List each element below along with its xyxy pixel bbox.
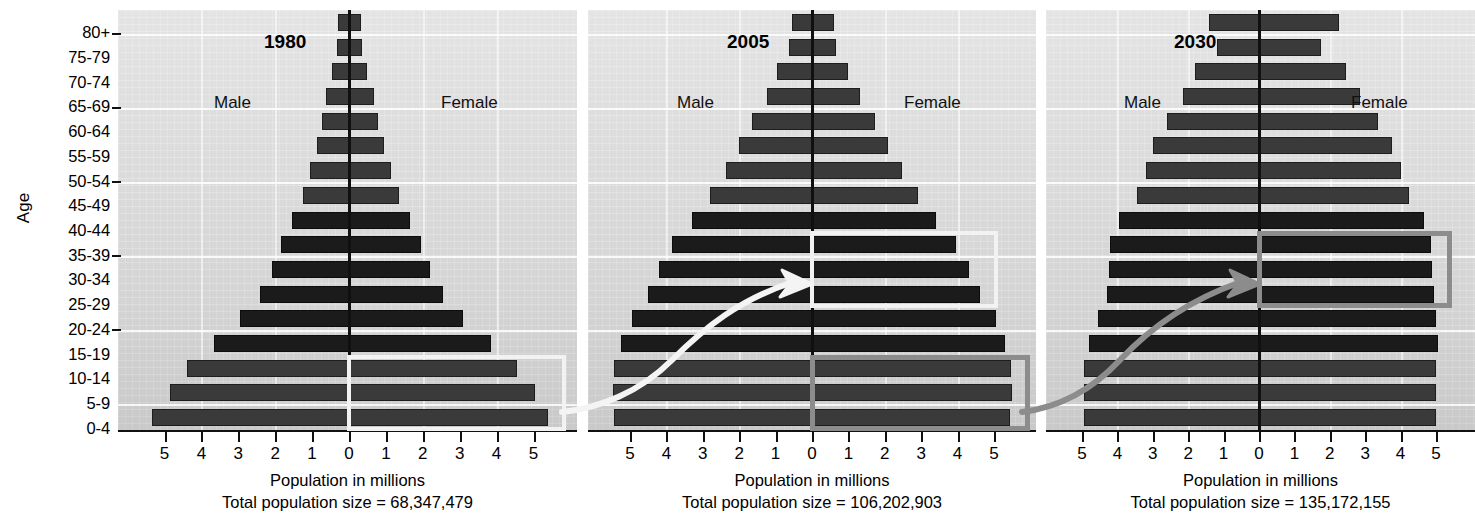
bar-female [1259,360,1436,377]
bar-male [1153,137,1259,154]
bar-female [1259,286,1434,303]
bar-female [812,384,1012,401]
x-axis-tick [534,431,536,442]
bar-male [648,286,812,303]
x-axis-tick-label: 5 [522,444,546,464]
x-axis-tick [666,431,668,442]
x-axis-tick [703,431,705,442]
x-axis-tick-label: 2 [1318,444,1342,464]
age-axis-labels: 80+75-7970-7465-6960-6455-5950-5445-4940… [30,20,110,430]
panel-year-label: 1980 [264,31,306,53]
bar-female [812,88,860,105]
x-axis-tick-label: 5 [153,444,177,464]
x-axis-tick-label: 2 [411,444,435,464]
age-label: 65-69 [30,98,110,115]
panel-caption: Population in millionsTotal population s… [1046,470,1475,514]
x-axis-tick-label: 3 [226,444,250,464]
bar-female [812,137,888,154]
bar-female [812,286,980,303]
bar-female [1259,310,1436,327]
bar-female [1259,409,1436,426]
bar-female [1259,137,1392,154]
total-population-label: Total population size = 135,172,155 [1046,492,1475,514]
center-axis-line [348,10,351,430]
bar-female [1259,335,1438,352]
bar-male [1084,384,1259,401]
x-axis-tick [1117,431,1119,442]
bar-female [1259,212,1424,229]
bar-male [659,261,812,278]
bar-male [1084,409,1259,426]
age-label: 55-59 [30,148,110,165]
x-axis-tick [1294,431,1296,442]
x-axis-tick-label: 4 [485,444,509,464]
x-axis-tick [776,431,778,442]
bar-male [292,212,349,229]
bar-male [1084,360,1259,377]
x-axis-tick [630,431,632,442]
bar-female [1259,39,1321,56]
age-label: 50-54 [30,173,110,190]
bar-male [332,63,349,80]
x-axis-line [118,430,577,432]
x-axis-title: Population in millions [734,471,889,489]
bar-male [1209,14,1259,31]
bar-male [1119,212,1259,229]
x-axis-tick [349,431,351,442]
panel-year-label: 2030 [1174,31,1216,53]
x-axis-tick-label: 3 [691,444,715,464]
bar-female [349,261,430,278]
x-axis-tick [1188,431,1190,442]
age-label: 15-19 [30,346,110,363]
bar-male [214,335,349,352]
bar-female [812,39,836,56]
x-axis-tick-label: 1 [300,444,324,464]
bar-male [1217,39,1259,56]
x-axis-tick [1365,431,1367,442]
x-axis: 54321012345 [588,430,1036,442]
bar-male [317,137,349,154]
bar-male [777,63,812,80]
x-axis-tick [165,431,167,442]
x-axis-tick [1401,431,1403,442]
bar-female [1259,162,1401,179]
x-axis-tick-label: 0 [800,444,824,464]
bar-male [1107,286,1259,303]
bar-male [1146,162,1259,179]
x-axis-tick-label: 0 [1247,444,1271,464]
bar-female [349,236,421,253]
bar-female [812,335,1005,352]
x-axis-tick-label: 3 [909,444,933,464]
x-axis-tick-label: 3 [448,444,472,464]
bar-female [349,409,548,426]
x-axis-tick [994,431,996,442]
bar-female [1259,63,1346,80]
x-axis-tick [739,431,741,442]
bar-female [812,236,956,253]
x-axis-tick-label: 4 [1105,444,1129,464]
x-axis-tick [1436,431,1438,442]
age-label: 20-24 [30,321,110,338]
bar-male [789,39,812,56]
x-axis-title: Population in millions [270,471,425,489]
bar-female [349,113,378,130]
x-axis-tick-label: 2 [1176,444,1200,464]
bar-female [1259,261,1432,278]
panel-2030: 2030MaleFemale [1046,10,1475,430]
age-axis-tick [112,107,121,109]
x-axis-tick-label: 2 [263,444,287,464]
bar-female [349,310,463,327]
x-axis-tick [958,431,960,442]
age-axis-tick [112,255,121,257]
bar-female [812,162,902,179]
bar-male [792,14,812,31]
x-axis-tick-label: 1 [836,444,860,464]
x-axis-tick [848,431,850,442]
age-axis-tick [112,33,121,35]
bar-female [1259,384,1436,401]
age-label: 5-9 [30,395,110,412]
bar-male [614,360,812,377]
panel-1980: 1980MaleFemale [118,10,577,430]
x-axis-tick-label: 1 [374,444,398,464]
x-axis-tick-label: 5 [1424,444,1448,464]
